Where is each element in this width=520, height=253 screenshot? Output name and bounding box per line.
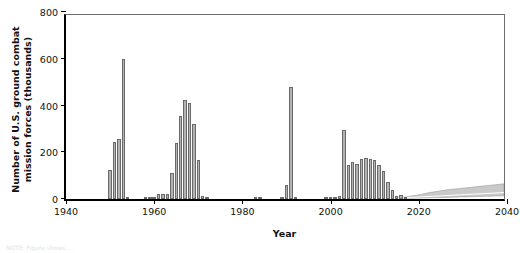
bar bbox=[201, 196, 204, 200]
bar bbox=[117, 139, 120, 199]
y-tick bbox=[61, 105, 66, 106]
x-tick-label: 1960 bbox=[142, 206, 166, 217]
bar bbox=[280, 197, 283, 199]
y-tick bbox=[61, 11, 66, 12]
bar bbox=[254, 197, 257, 199]
bar bbox=[382, 171, 385, 199]
bar bbox=[144, 197, 147, 199]
x-tick-label: 2020 bbox=[407, 206, 431, 217]
bar bbox=[355, 164, 358, 199]
bar bbox=[364, 158, 367, 199]
bar bbox=[324, 197, 327, 199]
y-tick-label: 400 bbox=[40, 100, 58, 111]
bar bbox=[166, 194, 169, 199]
bar bbox=[391, 190, 394, 199]
y-tick bbox=[61, 58, 66, 59]
bar bbox=[338, 196, 341, 199]
bar bbox=[351, 162, 354, 199]
bar bbox=[161, 194, 164, 199]
bar bbox=[258, 197, 261, 199]
y-tick bbox=[61, 151, 66, 152]
plot-area: 0200400600800194019601980200020202040 bbox=[64, 14, 505, 201]
bar bbox=[148, 197, 151, 199]
bar bbox=[373, 160, 376, 199]
bar bbox=[377, 165, 380, 199]
x-axis-title: Year bbox=[64, 228, 505, 239]
bar bbox=[347, 165, 350, 199]
x-tick bbox=[66, 199, 67, 204]
x-tick bbox=[242, 199, 243, 204]
bar bbox=[188, 103, 191, 199]
bar bbox=[386, 182, 389, 199]
bar bbox=[404, 197, 407, 199]
bar bbox=[175, 143, 178, 199]
x-tick bbox=[507, 199, 508, 204]
bar bbox=[333, 197, 336, 199]
bar bbox=[126, 197, 129, 199]
figure-footnote: NOTE: Figure shows ... bbox=[6, 244, 306, 251]
bar bbox=[369, 159, 372, 199]
x-tick-label: 1980 bbox=[230, 206, 254, 217]
bar bbox=[179, 116, 182, 199]
y-tick-label: 0 bbox=[52, 194, 58, 205]
bar bbox=[294, 197, 297, 199]
bar bbox=[395, 196, 398, 199]
x-tick bbox=[419, 199, 420, 204]
bar bbox=[108, 170, 111, 199]
x-tick-label: 1940 bbox=[54, 206, 78, 217]
bar bbox=[197, 160, 200, 199]
bar bbox=[342, 130, 345, 199]
x-tick bbox=[331, 199, 332, 204]
bar bbox=[285, 185, 288, 199]
x-tick-label: 2000 bbox=[319, 206, 343, 217]
bar bbox=[289, 87, 292, 199]
x-tick bbox=[154, 199, 155, 204]
bar bbox=[183, 100, 186, 199]
bar-series bbox=[66, 15, 504, 199]
chart-figure: Number of U.S. ground combat mission for… bbox=[0, 0, 520, 253]
bar bbox=[360, 159, 363, 199]
y-tick-label: 600 bbox=[40, 53, 58, 64]
bar bbox=[205, 197, 208, 199]
bar bbox=[170, 173, 173, 199]
y-axis-title: Number of U.S. ground combat mission for… bbox=[10, 10, 33, 210]
bar bbox=[122, 59, 125, 199]
bar bbox=[113, 142, 116, 199]
bar bbox=[399, 195, 402, 199]
bar bbox=[192, 124, 195, 199]
y-tick-label: 800 bbox=[40, 7, 58, 18]
y-tick-label: 200 bbox=[40, 147, 58, 158]
x-tick-label: 2040 bbox=[495, 206, 519, 217]
bar bbox=[157, 194, 160, 199]
